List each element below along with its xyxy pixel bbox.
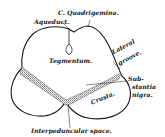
label-interpeduncular-space: Interpeduncular space. [31, 128, 112, 134]
label-substantia-stantia: stantia [132, 84, 156, 90]
label-substantia-sub: Sub- [128, 76, 144, 82]
label-aqueduct: Aqueduct. [34, 19, 69, 25]
label-substantia-nigra: nigra. [132, 92, 153, 98]
midbrain-diagram: C. Quadrigemina. Aqueduct. Tegmentum. La… [0, 0, 165, 137]
midbrain-outline-drawing [0, 0, 165, 137]
label-tegmentum: Tegmentum. [49, 58, 92, 64]
label-c-quadrigemina: C. Quadrigemina. [58, 10, 119, 16]
aqueduct-shape [66, 44, 72, 55]
